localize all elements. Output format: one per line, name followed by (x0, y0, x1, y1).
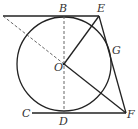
label-e: E (96, 2, 105, 15)
segment-of (64, 64, 126, 113)
label-c: C (22, 107, 31, 120)
segment-oe (64, 16, 99, 64)
dashed-segment-to-o (3, 16, 64, 64)
segment-ef (99, 16, 126, 113)
label-g: G (112, 44, 121, 57)
label-o: O (54, 61, 63, 74)
geometry-diagram: B E G O C D F (0, 0, 138, 129)
center-point-o (63, 63, 66, 66)
label-b: B (58, 2, 67, 15)
label-d: D (58, 115, 68, 128)
label-f: F (126, 108, 135, 121)
